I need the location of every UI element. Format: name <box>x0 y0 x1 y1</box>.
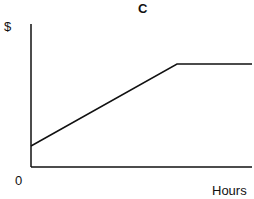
chart-plot <box>0 0 254 199</box>
cost-line <box>31 64 252 146</box>
